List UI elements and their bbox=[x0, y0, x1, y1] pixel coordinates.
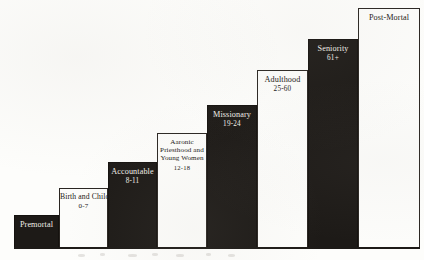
bar-name-adulthood: Adulthood bbox=[258, 75, 307, 84]
bar-label-adulthood: Adulthood 25-60 bbox=[258, 71, 307, 93]
bar-name-premortal: Premortal bbox=[15, 220, 58, 229]
bar-accountable[interactable]: Accountable 8-11 bbox=[108, 162, 157, 248]
bar-range-missionary: 19-24 bbox=[208, 120, 256, 128]
bar-missionary[interactable]: Missionary 19-24 bbox=[207, 105, 257, 248]
bar-label-missionary: Missionary 19-24 bbox=[208, 106, 256, 128]
bar-name-post-mortal: Post-Mortal bbox=[359, 13, 419, 22]
bar-label-premortal: Premortal bbox=[15, 216, 58, 229]
bar-range-seniority: 61+ bbox=[309, 54, 357, 62]
chart-baseline bbox=[14, 247, 420, 249]
bar-name-birth-and-childhood: Birth and Childhood bbox=[60, 193, 107, 202]
bar-range-accountable: 8-11 bbox=[109, 177, 156, 185]
bar-label-accountable: Accountable 8-11 bbox=[109, 163, 156, 185]
bar-name-seniority: Seniority bbox=[309, 44, 357, 53]
bar-name-accountable: Accountable bbox=[109, 167, 156, 176]
bar-label-aaronic-priesthood-and-young-women: Aaronic Priesthood and Young Women 12-18 bbox=[158, 134, 206, 171]
plot-area: Premortal Birth and Childhood 0-7 Accoun… bbox=[0, 0, 424, 260]
bar-label-birth-and-childhood: Birth and Childhood 0-7 bbox=[60, 189, 107, 210]
bar-range-birth-and-childhood: 0-7 bbox=[60, 203, 107, 211]
staircase-chart: Premortal Birth and Childhood 0-7 Accoun… bbox=[0, 0, 424, 260]
bar-label-seniority: Seniority 61+ bbox=[309, 40, 357, 62]
bar-birth-and-childhood[interactable]: Birth and Childhood 0-7 bbox=[59, 188, 108, 248]
bar-premortal[interactable]: Premortal bbox=[14, 215, 59, 248]
bar-aaronic-priesthood-and-young-women[interactable]: Aaronic Priesthood and Young Women 12-18 bbox=[157, 133, 207, 248]
bar-range-aaronic-priesthood-and-young-women: 12-18 bbox=[158, 164, 206, 171]
bar-range-adulthood: 25-60 bbox=[258, 85, 307, 93]
bar-label-post-mortal: Post-Mortal bbox=[359, 9, 419, 22]
bar-adulthood[interactable]: Adulthood 25-60 bbox=[257, 70, 308, 248]
bar-name-aaronic-priesthood-and-young-women: Aaronic Priesthood and Young Women bbox=[154, 138, 210, 163]
bar-seniority[interactable]: Seniority 61+ bbox=[308, 39, 358, 248]
bar-name-missionary: Missionary bbox=[208, 110, 256, 119]
bar-post-mortal[interactable]: Post-Mortal bbox=[358, 8, 420, 248]
